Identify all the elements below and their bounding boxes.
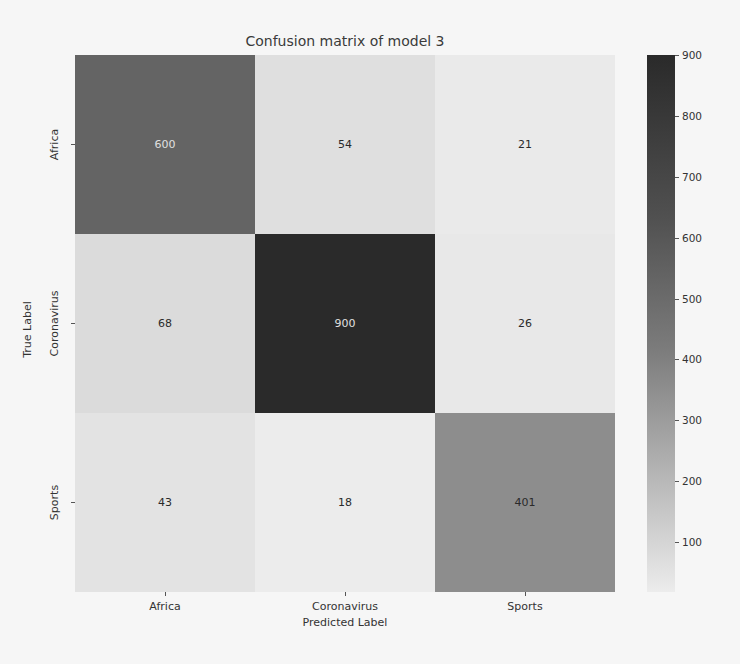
cell-value: 26 — [518, 317, 532, 330]
colorbar-tick-label: 700 — [682, 171, 702, 183]
colorbar-tick-mark — [675, 359, 679, 360]
colorbar-tick-label: 900 — [682, 49, 702, 61]
cell-value: 401 — [515, 496, 536, 509]
colorbar-tick-label: 500 — [682, 293, 702, 305]
x-tick-mark — [525, 592, 526, 596]
x-tick-africa: Africa — [75, 600, 255, 613]
matrix-cell: 54 — [255, 55, 435, 234]
matrix-cell: 900 — [255, 234, 435, 413]
colorbar-tick-mark — [675, 238, 679, 239]
colorbar-tick-mark — [675, 420, 679, 421]
colorbar-tick-mark — [675, 177, 679, 178]
colorbar-tick-mark — [675, 299, 679, 300]
x-tick-sports: Sports — [435, 600, 615, 613]
confusion-matrix-grid: 600 54 21 68 900 26 43 18 401 — [75, 55, 615, 592]
y-tick-mark — [71, 502, 75, 503]
matrix-cell: 18 — [255, 413, 435, 592]
matrix-cell: 26 — [435, 234, 615, 413]
x-axis-label: Predicted Label — [75, 616, 615, 629]
cell-value: 68 — [158, 317, 172, 330]
x-tick-mark — [165, 592, 166, 596]
y-tick-mark — [71, 323, 75, 324]
y-tick-mark — [71, 144, 75, 145]
y-axis-label: True Label — [12, 323, 42, 336]
cell-value: 54 — [338, 138, 352, 151]
colorbar-tick-mark — [675, 116, 679, 117]
chart-title: Confusion matrix of model 3 — [75, 33, 615, 49]
colorbar-tick-label: 200 — [682, 475, 702, 487]
cell-value: 21 — [518, 138, 532, 151]
colorbar — [647, 55, 675, 592]
cell-value: 900 — [335, 317, 356, 330]
colorbar-tick-mark — [675, 542, 679, 543]
cell-value: 43 — [158, 496, 172, 509]
x-tick-mark — [345, 592, 346, 596]
x-tick-coronavirus: Coronavirus — [255, 600, 435, 613]
matrix-cell: 21 — [435, 55, 615, 234]
colorbar-tick-label: 400 — [682, 353, 702, 365]
colorbar-tick-label: 600 — [682, 232, 702, 244]
colorbar-tick-mark — [675, 481, 679, 482]
colorbar-tick-label: 100 — [682, 536, 702, 548]
colorbar-tick-label: 300 — [682, 414, 702, 426]
cell-value: 18 — [338, 496, 352, 509]
colorbar-tick-label: 800 — [682, 110, 702, 122]
matrix-cell: 68 — [75, 234, 255, 413]
y-tick-sports: Sports — [40, 413, 70, 592]
y-tick-africa: Africa — [40, 55, 70, 234]
matrix-cell: 600 — [75, 55, 255, 234]
matrix-cell: 43 — [75, 413, 255, 592]
colorbar-tick-mark — [675, 55, 679, 56]
cell-value: 600 — [155, 138, 176, 151]
y-tick-coronavirus: Coronavirus — [40, 234, 70, 413]
matrix-cell: 401 — [435, 413, 615, 592]
